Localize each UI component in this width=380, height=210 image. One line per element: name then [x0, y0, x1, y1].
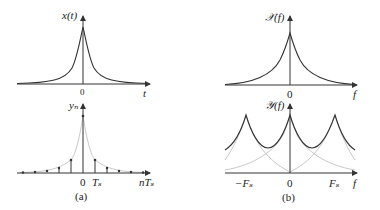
- x-of-t-label: x(t): [62, 10, 77, 21]
- plot-y-n: [17, 104, 150, 174]
- origin-label: 0: [287, 178, 293, 189]
- fs-tick-label: Fₛ: [329, 178, 339, 189]
- y-n-label: yₙ: [69, 100, 78, 111]
- origin-label: 0: [80, 88, 85, 97]
- caption-b: (b): [282, 192, 295, 203]
- ts-tick-label: Tₛ: [92, 177, 102, 188]
- f-axis-label: f: [353, 89, 356, 100]
- origin-label: 0: [287, 89, 293, 100]
- nts-axis-label: nTₛ: [139, 177, 154, 188]
- plot-x-of-t: [17, 16, 150, 84]
- Y-of-f-label: 𝒴(f): [265, 100, 284, 111]
- X-of-f-label: 𝒳(f): [265, 12, 284, 23]
- plot-Y-of-f: [225, 104, 357, 173]
- plot-X-of-f: [225, 16, 357, 85]
- origin-label: 0: [80, 177, 86, 188]
- caption-a: (a): [75, 191, 87, 202]
- figure-canvas: [0, 0, 380, 210]
- t-axis-label: t: [143, 88, 146, 99]
- f-axis-label: f: [353, 178, 356, 189]
- neg-fs-tick-label: −Fₛ: [235, 178, 253, 189]
